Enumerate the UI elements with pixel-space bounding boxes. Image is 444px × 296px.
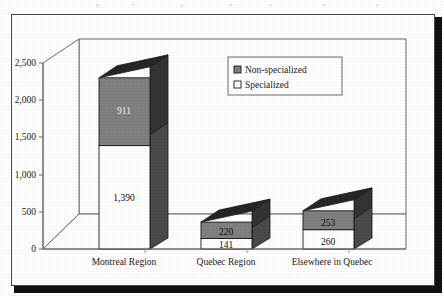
x-category-label-elsewhere-in-quebec: Elsewhere in Quebec — [292, 257, 373, 267]
x-axis: Montreal Region Quebec Region Elsewhere … — [43, 249, 406, 267]
bar2-specialized-value: 141 — [219, 240, 234, 250]
stacked-column-chart-3d: 2,500 2,000 1,500 1,000 500 0 911 1,390 — [12, 15, 436, 287]
y-tick-label-500: 500 — [22, 207, 37, 217]
chart-frame: 2,500 2,000 1,500 1,000 500 0 911 1,390 — [11, 14, 435, 286]
bar1-specialized-side — [150, 123, 168, 249]
legend-swatch-non-specialized — [234, 66, 241, 73]
legend-swatch-specialized — [234, 81, 241, 88]
x-category-label-quebec-region: Quebec Region — [197, 257, 256, 267]
y-axis: 2,500 2,000 1,500 1,000 500 0 — [15, 58, 43, 254]
legend-entry-non-specialized[interactable]: Non-specialized — [234, 65, 307, 75]
bar2-nonspecialized-value: 220 — [219, 227, 234, 237]
y-tick-label-2000: 2,000 — [15, 95, 37, 105]
y-tick-label-2500: 2,500 — [15, 58, 37, 68]
y-tick-label-1000: 1,000 — [15, 170, 37, 180]
y-tick-label-1500: 1,500 — [15, 132, 37, 142]
bar-group-montreal-region[interactable]: 911 1,390 — [99, 55, 168, 249]
x-category-label-montreal-region: Montreal Region — [92, 257, 157, 267]
chart-left-wall — [43, 39, 79, 249]
scan-artifact-strip — [0, 0, 444, 11]
chart-legend[interactable]: Non-specialized Specialized — [228, 57, 342, 95]
bar3-nonspecialized-value: 253 — [321, 218, 336, 228]
legend-label-specialized: Specialized — [245, 80, 289, 90]
bar1-specialized-value: 1,390 — [113, 193, 135, 203]
bar1-nonspecialized-value: 911 — [117, 106, 131, 116]
bar1-nonspecialized-side — [150, 55, 168, 135]
legend-label-non-specialized: Non-specialized — [245, 65, 307, 75]
bar3-specialized-value: 260 — [321, 237, 336, 247]
y-tick-label-0: 0 — [31, 244, 36, 254]
